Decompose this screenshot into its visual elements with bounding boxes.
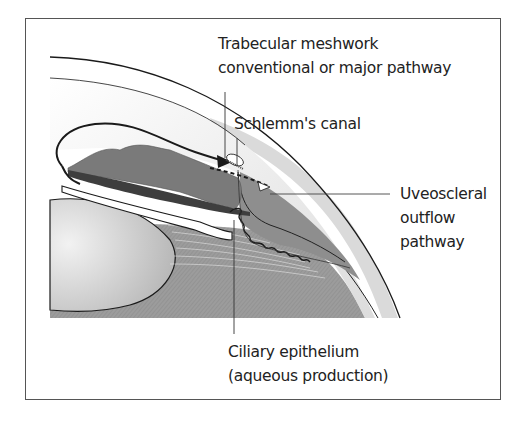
label-uveo-line3: pathway (400, 230, 487, 254)
label-ciliary-epithelium: Ciliary epithelium (aqueous production) (228, 340, 388, 388)
label-schlemms-canal: Schlemm's canal (234, 112, 361, 136)
label-schlemm-line1: Schlemm's canal (234, 112, 361, 136)
label-uveo-line1: Uveoscleral (400, 182, 487, 206)
label-ciliary-line2: (aqueous production) (228, 364, 388, 388)
label-ciliary-line1: Ciliary epithelium (228, 340, 388, 364)
label-trabecular-line2: conventional or major pathway (218, 56, 451, 80)
label-trabecular-line1: Trabecular meshwork (218, 32, 451, 56)
label-uveo-line2: outflow (400, 206, 487, 230)
label-uveoscleral-outflow: Uveoscleral outflow pathway (400, 182, 487, 254)
label-trabecular-meshwork: Trabecular meshwork conventional or majo… (218, 32, 451, 80)
